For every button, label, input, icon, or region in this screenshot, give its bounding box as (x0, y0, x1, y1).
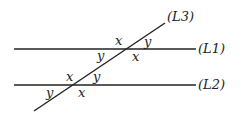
angle-l2-above-right: y (92, 69, 101, 84)
label-l1: (L1) (198, 41, 225, 56)
diagram-canvas: (L3) (L1) (L2) x y y x x y y x (0, 0, 241, 114)
label-l3: (L3) (167, 9, 194, 24)
angle-l2-below-right: x (78, 85, 86, 100)
angle-l2-above-left: x (66, 69, 74, 84)
label-l2: (L2) (198, 77, 225, 92)
angle-l2-below-left: y (45, 85, 54, 100)
angle-l1-above-right: y (143, 34, 152, 49)
angle-l1-below-right: x (132, 49, 140, 64)
angle-l1-below-left: y (96, 48, 105, 63)
angle-l1-above-left: x (115, 33, 123, 48)
